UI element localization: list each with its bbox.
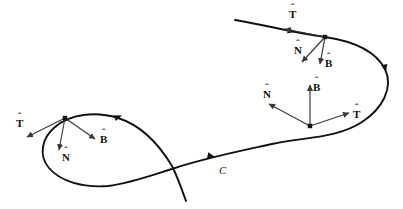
vector-symbol: B [325, 58, 332, 69]
frame-upper-right-tangent-label: ˆT [289, 6, 296, 20]
vector-symbol: N [263, 89, 271, 100]
frenet-frame-figure: ˆTˆNˆBˆTˆNˆBˆTˆNˆB C [0, 0, 403, 209]
frame-left-origin-point [63, 116, 67, 120]
frame-left-binormal-vector [65, 118, 95, 139]
vector-symbol: N [294, 45, 302, 56]
curve-path [43, 20, 388, 201]
vector-symbol: B [313, 82, 320, 93]
figure-canvas [0, 0, 403, 209]
vector-symbol: T [353, 109, 360, 120]
frame-left-tangent-vector [27, 118, 65, 137]
frame-left-tangent-label: ˆT [16, 115, 23, 129]
frame-upper-right-binormal-label: ˆB [325, 55, 332, 69]
vector-symbol: N [62, 152, 70, 163]
vector-symbol: B [100, 134, 107, 145]
vector-symbol: T [16, 118, 23, 129]
curve-label: C [219, 164, 226, 176]
frame-upper-right-tangent-vector [285, 29, 325, 37]
frame-left-normal-label: ˆN [62, 149, 70, 163]
frame-middle-tangent-label: ˆT [353, 106, 360, 120]
curve-direction-markers [114, 27, 389, 160]
frame-upper-right-origin-point [323, 35, 327, 39]
vector-symbol: T [289, 9, 296, 20]
frame-middle-normal-vector [269, 104, 310, 126]
frame-left-binormal-label: ˆB [100, 131, 107, 145]
space-curve [43, 20, 388, 201]
frame-middle-origin-point [308, 124, 312, 128]
frame-middle-tangent-vector [310, 113, 349, 126]
frame-middle-binormal-label: ˆB [313, 79, 320, 93]
frame-upper-right-normal-label: ˆN [294, 42, 302, 56]
frame-middle-normal-label: ˆN [263, 86, 271, 100]
